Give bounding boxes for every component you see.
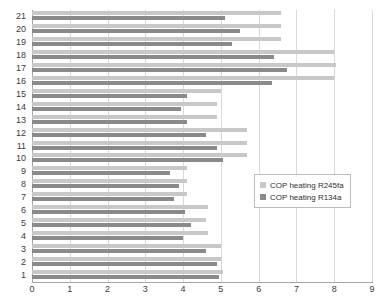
- y-tick-label: 7: [21, 193, 26, 202]
- y-tick-label: 8: [21, 180, 26, 189]
- y-tick-label: 3: [21, 245, 26, 254]
- bar-r134a: [32, 223, 191, 227]
- x-tick-label: 8: [332, 284, 337, 294]
- bar-group: [32, 217, 372, 230]
- bar-r245fa: [32, 257, 221, 261]
- legend-entry: COP heating R134a: [260, 191, 344, 203]
- bar-r245fa: [32, 166, 187, 170]
- x-tick-label: 1: [67, 284, 72, 294]
- bar-chart: 212019181716151413121110987654321 012345…: [0, 0, 380, 306]
- bar-r134a: [32, 249, 206, 253]
- bar-r134a: [32, 197, 174, 201]
- y-axis: 212019181716151413121110987654321: [0, 10, 30, 282]
- x-axis-line: [32, 282, 373, 283]
- x-tick-label: 2: [105, 284, 110, 294]
- bars-layer: [32, 10, 372, 282]
- bar-r134a: [32, 94, 187, 98]
- bar-group: [32, 62, 372, 75]
- y-tick-label: 11: [17, 142, 26, 151]
- bar-r134a: [32, 262, 217, 266]
- bar-r134a: [32, 16, 225, 20]
- y-tick-label: 6: [21, 206, 26, 215]
- bar-r134a: [32, 171, 170, 175]
- bar-r245fa: [32, 50, 334, 54]
- bar-r245fa: [32, 24, 281, 28]
- y-tick-label: 20: [16, 25, 26, 34]
- x-tick-label: 7: [294, 284, 299, 294]
- bar-r245fa: [32, 11, 281, 15]
- bar-r245fa: [32, 218, 206, 222]
- x-tick-label: 6: [256, 284, 261, 294]
- bar-r245fa: [32, 63, 336, 67]
- y-tick-label: 5: [21, 219, 26, 228]
- y-tick-label: 4: [21, 232, 26, 241]
- legend-entry: COP heating R245fa: [260, 179, 344, 191]
- x-axis: 0123456789: [32, 284, 372, 300]
- bar-r245fa: [32, 128, 247, 132]
- y-tick-label: 14: [16, 103, 26, 112]
- bar-r134a: [32, 68, 287, 72]
- bar-r134a: [32, 29, 240, 33]
- bar-r134a: [32, 107, 181, 111]
- bar-group: [32, 140, 372, 153]
- bar-r134a: [32, 81, 272, 85]
- plot-area: [32, 10, 372, 282]
- legend-swatch-icon: [260, 182, 266, 188]
- bar-r134a: [32, 275, 219, 279]
- bar-r245fa: [32, 205, 208, 209]
- bar-group: [32, 10, 372, 23]
- bar-r134a: [32, 184, 179, 188]
- bar-group: [32, 152, 372, 165]
- bar-group: [32, 23, 372, 36]
- legend-swatch-icon: [260, 194, 266, 200]
- y-tick-label: 10: [16, 154, 26, 163]
- bar-r245fa: [32, 102, 217, 106]
- x-tick-label: 0: [29, 284, 34, 294]
- bar-r134a: [32, 158, 223, 162]
- bar-r245fa: [32, 153, 247, 157]
- bar-group: [32, 243, 372, 256]
- bar-r134a: [32, 120, 187, 124]
- legend-label: COP heating R134a: [270, 193, 341, 202]
- x-tick-label: 3: [143, 284, 148, 294]
- bar-group: [32, 36, 372, 49]
- bar-group: [32, 88, 372, 101]
- bar-r134a: [32, 133, 206, 137]
- bar-group: [32, 256, 372, 269]
- bar-r245fa: [32, 231, 208, 235]
- y-tick-label: 9: [21, 167, 26, 176]
- y-tick-label: 15: [16, 90, 26, 99]
- x-tick-label: 5: [218, 284, 223, 294]
- bar-r245fa: [32, 89, 221, 93]
- y-tick-label: 21: [16, 12, 26, 21]
- bar-group: [32, 230, 372, 243]
- bar-r134a: [32, 146, 217, 150]
- bar-r134a: [32, 42, 232, 46]
- bar-r245fa: [32, 141, 247, 145]
- bar-group: [32, 75, 372, 88]
- gridline-x-9: [372, 10, 373, 282]
- bar-group: [32, 269, 372, 282]
- bar-r245fa: [32, 270, 223, 274]
- y-tick-label: 16: [16, 77, 26, 86]
- bar-r134a: [32, 55, 274, 59]
- bar-r245fa: [32, 179, 187, 183]
- y-tick-label: 18: [16, 51, 26, 60]
- y-tick-label: 13: [16, 116, 26, 125]
- bar-r245fa: [32, 76, 334, 80]
- bar-group: [32, 114, 372, 127]
- chart-legend: COP heating R245faCOP heating R134a: [254, 174, 351, 208]
- bar-group: [32, 127, 372, 140]
- y-tick-label: 19: [16, 38, 26, 47]
- bar-r134a: [32, 210, 185, 214]
- bar-r245fa: [32, 244, 221, 248]
- x-tick-label: 4: [181, 284, 186, 294]
- bar-group: [32, 101, 372, 114]
- y-tick-label: 17: [16, 64, 26, 73]
- x-tick-label: 9: [369, 284, 374, 294]
- y-tick-label: 12: [16, 129, 26, 138]
- legend-label: COP heating R245fa: [270, 181, 344, 190]
- y-tick-label: 1: [21, 271, 26, 280]
- bar-r245fa: [32, 115, 217, 119]
- y-tick-label: 2: [21, 258, 26, 267]
